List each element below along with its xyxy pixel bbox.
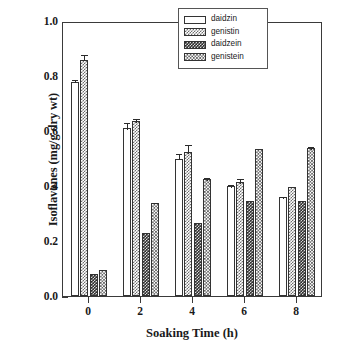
legend-item: daidzin [184, 14, 262, 25]
bar-genistein-8h [307, 148, 315, 297]
legend-label-genistein: genistein [211, 53, 244, 61]
y-axis-tick-label: 0.6 [20, 126, 58, 138]
legend-swatch-daidzein [184, 41, 206, 49]
error-bar-cap [280, 197, 286, 198]
legend-label-daidzein: daidzein [211, 40, 242, 48]
bar-genistein-6h [255, 149, 263, 296]
chart-legend: daidzin genistin daidzein genistein [178, 8, 268, 69]
y-axis-tick-label: 0.8 [20, 71, 58, 83]
error-bar-cap [185, 145, 191, 146]
bar-daidzein-6h [246, 201, 254, 296]
bar-daidzin-0h [71, 82, 79, 297]
bar-daidzein-2h [142, 233, 150, 296]
bar-genistin-6h [236, 182, 244, 296]
legend-item: genistin [184, 27, 262, 38]
error-bar-line [127, 123, 128, 130]
legend-item: daidzein [184, 39, 262, 50]
x-axis-tick-mark [140, 297, 141, 303]
x-axis-title: Soaking Time (h) [62, 326, 322, 341]
bar-genistin-8h [288, 187, 296, 296]
bar-daidzin-2h [123, 128, 131, 296]
error-bar-cap [237, 179, 243, 180]
bar-genistein-0h [99, 270, 107, 296]
x-axis-tick-mark [88, 297, 89, 303]
x-axis-tick-label: 8 [276, 305, 316, 317]
bar-genistein-2h [151, 203, 159, 297]
legend-swatch-genistin [184, 28, 206, 36]
x-axis-tick-mark [192, 297, 193, 303]
legend-label-daidzin: daidzin [211, 15, 237, 23]
error-bar-cap [124, 123, 130, 124]
x-axis-tick-mark [244, 297, 245, 303]
error-bar-cap [152, 203, 158, 204]
error-bar-cap [133, 119, 139, 120]
y-axis-tick-label: 0.2 [20, 236, 58, 248]
chart-figure: Isoflavones (mg/g dry wt) Soaking Time (… [0, 0, 340, 358]
bar-genistin-2h [132, 121, 140, 296]
x-axis-tick-label: 6 [224, 305, 264, 317]
x-axis-tick-mark [296, 297, 297, 303]
y-axis-title: Isoflavones (mg/g dry wt) [46, 20, 61, 300]
x-axis-tick-label: 2 [120, 305, 160, 317]
error-bar-cap [72, 80, 78, 81]
legend-item: genistein [184, 52, 262, 63]
bar-genistin-4h [184, 152, 192, 296]
error-bar-cap [204, 178, 210, 179]
bar-daidzin-6h [227, 186, 235, 296]
x-axis-tick-label: 0 [68, 305, 108, 317]
bar-daidzin-8h [279, 197, 287, 296]
bar-daidzin-4h [175, 159, 183, 297]
legend-swatch-daidzin [184, 16, 206, 24]
y-axis-tick-label: 0.4 [20, 181, 58, 193]
legend-label-genistin: genistin [211, 28, 239, 36]
bar-genistin-0h [80, 60, 88, 297]
bar-daidzein-8h [298, 201, 306, 296]
error-bar-cap [308, 147, 314, 148]
y-axis-tick-label: 1.0 [20, 16, 58, 28]
bar-genistein-4h [203, 179, 211, 296]
y-axis-tick-mark [62, 297, 68, 298]
y-axis-tick-label: 0.0 [20, 291, 58, 303]
legend-swatch-genistein [184, 53, 206, 61]
x-axis-tick-label: 4 [172, 305, 212, 317]
error-bar-cap [228, 185, 234, 186]
bar-daidzein-0h [90, 274, 98, 296]
error-bar-cap [176, 154, 182, 155]
error-bar-line [188, 145, 189, 153]
bar-daidzein-4h [194, 223, 202, 296]
error-bar-cap [81, 55, 87, 56]
